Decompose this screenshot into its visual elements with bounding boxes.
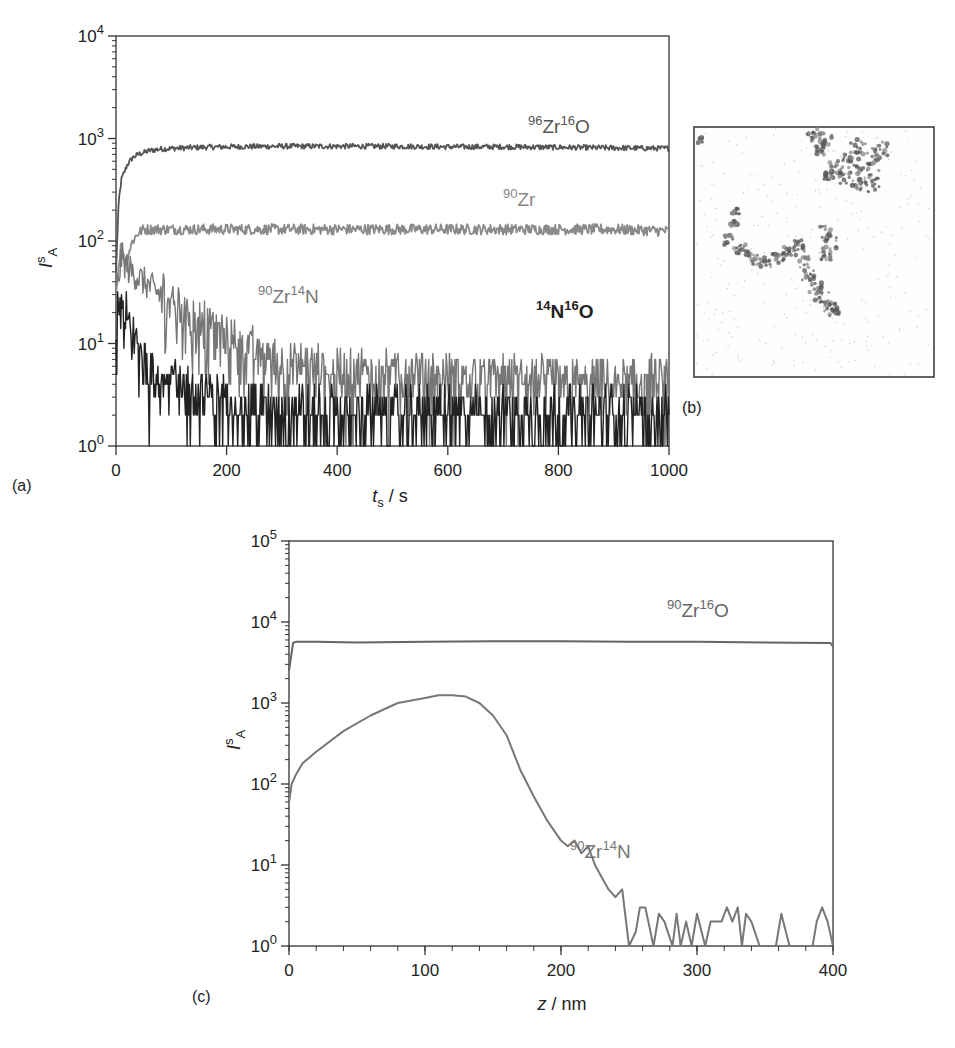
- figure-canvas: 100101102103104 02004006008001000 96Zr16…: [0, 0, 955, 1048]
- chart-a-x-axis-title: ts / s: [372, 486, 408, 510]
- chart-a-y-axis-title: IsA: [33, 248, 60, 269]
- y-tick-label: 101: [251, 851, 277, 875]
- y-tick-label: 101: [78, 330, 104, 354]
- y-tick-label: 103: [78, 125, 104, 149]
- chart-a-series: [116, 144, 669, 446]
- x-tick-label: 1000: [650, 461, 688, 480]
- x-tick-label: 100: [411, 961, 439, 980]
- chart-a-x-tick-labels: 02004006008001000: [111, 461, 688, 480]
- x-tick-label: 0: [111, 461, 120, 480]
- panel-label-a: (a): [12, 477, 32, 494]
- y-tick-label: 104: [78, 22, 104, 46]
- chart-c-y-axis-title: IsA: [221, 730, 248, 751]
- chart-c: 100101102103104105 0100200300400 90Zr16O…: [192, 527, 847, 1014]
- x-tick-label: 400: [819, 961, 847, 980]
- plot-frame: [289, 541, 833, 946]
- x-tick-label: 300: [683, 961, 711, 980]
- x-tick-label: 200: [212, 461, 240, 480]
- y-tick-label: 104: [251, 608, 277, 632]
- panel-label-c: (c): [192, 988, 211, 1005]
- series-line-96Zr16O: [116, 144, 669, 271]
- chart-a-y-tick-labels: 100101102103104: [78, 22, 104, 456]
- x-tick-label: 800: [544, 461, 572, 480]
- x-tick-label: 200: [547, 961, 575, 980]
- series-line-90Zr16O: [289, 641, 833, 671]
- chart-c-x-tick-labels: 0100200300400: [284, 961, 847, 980]
- chart-c-series-labels: 90Zr16O90Zr14N: [570, 597, 729, 862]
- chart-c-plot-frame: [289, 541, 833, 946]
- y-tick-label: 102: [78, 227, 104, 251]
- x-tick-label: 600: [434, 461, 462, 480]
- chart-c-y-tick-labels: 100101102103104105: [251, 527, 277, 956]
- chart-c-x-axis-title: z / nm: [536, 994, 586, 1014]
- panel-label-b: (b): [682, 399, 702, 416]
- y-tick-label: 103: [251, 689, 277, 713]
- series-line-90Zr14N: [289, 695, 833, 946]
- series-label-90Zr: 90Zr: [503, 186, 536, 210]
- y-tick-label: 100: [251, 932, 277, 956]
- x-tick-label: 400: [323, 461, 351, 480]
- series-label-90Zr16O: 90Zr16O: [667, 597, 729, 621]
- chart-c-series: [289, 641, 833, 946]
- series-label-90Zr14N: 90Zr14N: [570, 838, 631, 862]
- series-line-90Zr: [116, 224, 669, 295]
- chart-b-ion-image: (b): [682, 127, 934, 416]
- y-tick-label: 105: [251, 527, 277, 551]
- chart-b-image-frame: [694, 127, 934, 377]
- series-label-96Zr16O: 96Zr16O: [528, 113, 590, 137]
- chart-a: 100101102103104 02004006008001000 96Zr16…: [12, 22, 688, 510]
- x-tick-label: 0: [284, 961, 293, 980]
- series-label-14N16O: 14N16O: [536, 298, 593, 322]
- y-tick-label: 100: [78, 432, 104, 456]
- chart-c-axes: [281, 541, 833, 955]
- y-tick-label: 102: [251, 770, 277, 794]
- series-label-90Zr14N: 90Zr14N: [258, 283, 319, 307]
